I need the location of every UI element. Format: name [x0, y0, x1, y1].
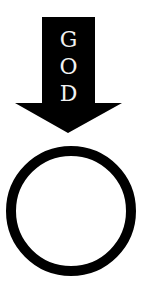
arrow-letter-o: O — [42, 56, 95, 78]
circle-shape — [11, 151, 131, 271]
arrow-letter-g: G — [42, 29, 95, 51]
arrow-letter-d: D — [42, 83, 95, 105]
